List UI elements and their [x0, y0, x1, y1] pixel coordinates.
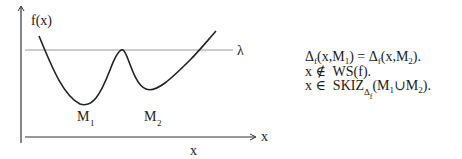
equation-not-in-watershed: x ∉ WS(f). — [305, 65, 371, 79]
skiz-union: ∪M — [394, 78, 418, 93]
minimum-m1-label: M 1 — [77, 109, 95, 128]
skiz-delta-sub-subscript: f — [370, 92, 373, 101]
m2-label: M — [144, 109, 157, 124]
rhs-close: ). — [413, 49, 421, 64]
delta-symbol: Δ — [305, 49, 314, 64]
x-axis-arrow-label: x — [261, 129, 268, 144]
minimum-m2-label: M 2 — [144, 109, 162, 128]
skiz-prefix: x ∈ SKIZ — [305, 78, 364, 93]
y-axis-label: f(x) — [31, 13, 52, 29]
equation-in-skiz: x ∈ SKIZΔf(M1∪M2). — [305, 79, 431, 104]
m1-subscript: 1 — [90, 118, 95, 128]
equals-sign: = — [354, 49, 369, 64]
m1-label: M — [77, 109, 90, 124]
lhs-args: (x,M — [317, 49, 345, 64]
skiz-args-close: ). — [423, 78, 431, 93]
x-axis-below-label: x — [190, 143, 197, 158]
function-curve — [39, 31, 216, 105]
not-in-ws-text: x ∉ WS(f). — [305, 64, 371, 79]
delta-symbol: Δ — [369, 49, 378, 64]
rhs-args: (x,M — [381, 49, 409, 64]
m2-subscript: 2 — [157, 118, 162, 128]
threshold-label: λ — [237, 43, 244, 58]
watershed-diagram: f(x) λ x x M 1 M 2 — [0, 0, 300, 159]
skiz-args-open: (M — [372, 78, 389, 93]
